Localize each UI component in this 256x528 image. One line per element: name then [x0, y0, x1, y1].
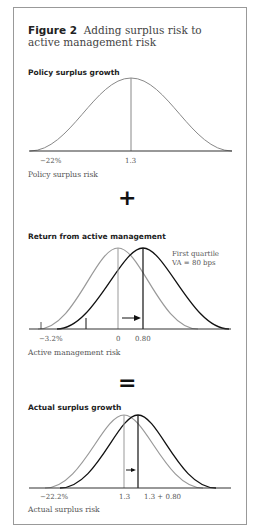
panel-caption: Active management risk — [28, 348, 120, 357]
equals-operator: = — [118, 370, 136, 395]
panel-heading-actual: Actual surplus growth — [28, 403, 121, 412]
plus-operator: + — [118, 185, 136, 210]
panel-caption: Actual surplus risk — [28, 505, 100, 514]
panel-heading-active: Return from active management — [28, 232, 166, 241]
axis-label: −22% — [40, 157, 61, 165]
annotation: First quartileVA = 80 bps — [172, 250, 219, 268]
axis-label: −3.2% — [39, 335, 63, 343]
axis-label: 0.80 — [135, 335, 151, 343]
axis-label: 0 — [116, 335, 120, 343]
axis-label: 1.3 — [119, 493, 130, 501]
panel-caption: Policy surplus risk — [28, 170, 98, 179]
axis-label: 1.3 — [125, 157, 136, 165]
axis-label: 1.3 + 0.80 — [144, 493, 181, 501]
axis-label: −22.2% — [40, 493, 68, 501]
